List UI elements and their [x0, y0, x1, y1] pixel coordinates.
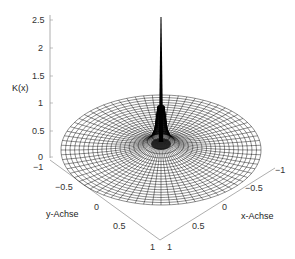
y-tick-label: 1	[150, 243, 155, 252]
z-tick-label: 1	[38, 99, 43, 108]
y-tick-label: −1	[33, 163, 43, 172]
z-axis-label: K(x)	[12, 84, 29, 93]
z-tick-label: 1.5	[32, 72, 45, 81]
x-tick-label: 0.5	[192, 222, 205, 231]
x-tick-label: 0	[222, 203, 227, 212]
y-axis-label: y-Achse	[46, 210, 79, 219]
z-tick-label: 0	[38, 153, 43, 162]
x-axis-label: x-Achse	[241, 212, 274, 221]
y-tick-label: 0.5	[113, 222, 126, 231]
x-tick-label: 1	[167, 243, 172, 252]
z-axis-ticks	[50, 20, 53, 157]
z-tick-label: 2	[38, 44, 43, 53]
y-axis-line	[50, 160, 160, 240]
z-tick-label: 2.5	[32, 16, 45, 25]
z-tick-label: 0.5	[32, 127, 45, 136]
x-tick-label: −0.5	[245, 184, 263, 193]
y-tick-label: 0	[94, 203, 99, 212]
y-tick-label: −0.5	[55, 183, 73, 192]
x-tick-label: −1	[275, 166, 285, 175]
